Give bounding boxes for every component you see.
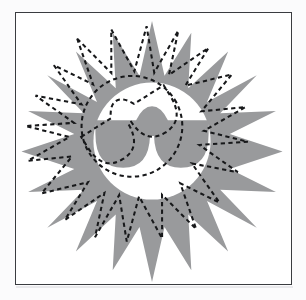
frame-drop-shadow — [16, 286, 293, 288]
canvas-root — [0, 0, 306, 300]
artboard-frame[interactable] — [15, 12, 292, 285]
artwork-svg[interactable] — [16, 13, 291, 284]
